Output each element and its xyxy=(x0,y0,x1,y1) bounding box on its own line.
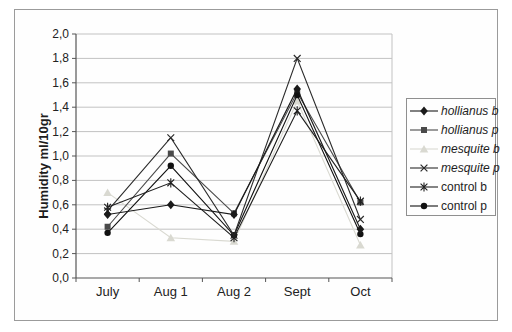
x-category-label: July xyxy=(96,284,120,299)
circle-marker xyxy=(168,163,174,169)
legend-label: control p xyxy=(441,199,487,213)
series-control-b xyxy=(104,106,364,242)
legend-label: mesquite b xyxy=(441,142,500,156)
legend-glyph xyxy=(409,162,439,174)
legend-glyph xyxy=(409,143,439,155)
square-marker xyxy=(421,127,427,133)
legend-item-control-b: control b xyxy=(407,177,495,196)
y-tick-label: 1,8 xyxy=(52,51,69,65)
legend-glyph xyxy=(409,105,439,117)
legend-label: hollianus b xyxy=(441,104,498,118)
circle-marker xyxy=(421,202,427,208)
x-marker xyxy=(167,134,174,141)
y-tick-label: 0,6 xyxy=(52,198,69,212)
legend-item-mesquite-p: mesquite p xyxy=(407,158,495,177)
x-category-label: Oct xyxy=(350,284,371,299)
y-tick-label: 1,0 xyxy=(52,149,69,163)
legend: hollianus bhollianus pmesquite bmesquite… xyxy=(406,98,496,216)
diamond-marker xyxy=(104,210,112,219)
diamond-marker xyxy=(167,200,175,209)
legend-glyph xyxy=(409,200,439,212)
legend-item-hollianus-b: hollianus b xyxy=(407,101,495,120)
y-tick-label: 2,0 xyxy=(52,27,69,41)
legend-label: hollianus p xyxy=(441,123,498,137)
y-tick-label: 0,4 xyxy=(52,222,69,236)
triangle-marker xyxy=(103,189,112,196)
legend-label: mesquite p xyxy=(441,161,500,175)
circle-marker xyxy=(104,230,110,236)
series-mesquite-b xyxy=(103,97,364,248)
y-tick-label: 0,0 xyxy=(52,271,69,285)
diamond-marker xyxy=(420,106,428,115)
square-marker xyxy=(105,224,111,230)
triangle-marker xyxy=(356,241,365,248)
x-category-label: Aug 2 xyxy=(217,284,251,299)
star-marker xyxy=(167,178,174,187)
legend-label: control b xyxy=(441,180,487,194)
legend-item-mesquite-b: mesquite b xyxy=(407,139,495,158)
square-marker xyxy=(168,151,174,157)
legend-glyph xyxy=(409,181,439,193)
y-tick-label: 1,2 xyxy=(52,125,69,139)
legend-glyph xyxy=(409,124,439,136)
y-tick-label: 1,6 xyxy=(52,76,69,90)
y-tick-label: 0,2 xyxy=(52,247,69,261)
legend-item-control-p: control p xyxy=(407,196,495,215)
scanned-chart-page: Humidity ml/10gr 0,00,20,40,60,81,01,21,… xyxy=(0,0,512,332)
x-category-label: Aug 1 xyxy=(154,284,188,299)
legend-item-hollianus-p: hollianus p xyxy=(407,120,495,139)
y-tick-label: 1,4 xyxy=(52,100,69,114)
x-marker xyxy=(357,216,364,223)
y-tick-label: 0,8 xyxy=(52,173,69,187)
x-category-label: Sept xyxy=(284,284,311,299)
